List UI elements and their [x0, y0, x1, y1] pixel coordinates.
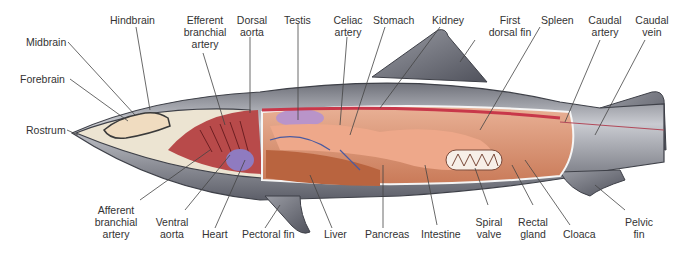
- label-dorsal-aorta: Dorsal aorta: [235, 14, 269, 38]
- label-forebrain: Forebrain: [20, 73, 65, 85]
- label-spiral-valve: Spiral valve: [472, 216, 506, 240]
- label-afferent-branchial-artery: Afferent branchial artery: [92, 204, 140, 240]
- label-heart: Heart: [202, 228, 228, 240]
- label-efferent-branchial-artery: Efferent branchial artery: [177, 14, 233, 50]
- label-kidney: Kidney: [432, 14, 464, 26]
- label-cloaca: Cloaca: [563, 228, 596, 240]
- label-celiac-artery: Celiac artery: [328, 14, 368, 38]
- label-first-dorsal-fin: First dorsal fin: [481, 14, 539, 38]
- label-spleen: Spleen: [541, 14, 574, 26]
- first-dorsal-fin-shape: [372, 30, 487, 82]
- label-ventral-aorta: Ventral aorta: [152, 216, 192, 240]
- label-hindbrain: Hindbrain: [110, 14, 155, 26]
- label-rostrum: Rostrum: [26, 124, 66, 136]
- pelvic-fin-shape: [560, 170, 625, 196]
- label-intestine: Intestine: [421, 228, 461, 240]
- label-midbrain: Midbrain: [26, 36, 66, 48]
- spiral-valve-shape: [446, 150, 502, 170]
- label-caudal-vein: Caudal vein: [632, 14, 672, 38]
- heart-shape: [226, 149, 254, 171]
- label-liver: Liver: [324, 228, 347, 240]
- label-caudal-artery: Caudal artery: [585, 14, 625, 38]
- label-testis: Testis: [284, 14, 311, 26]
- label-stomach: Stomach: [373, 14, 414, 26]
- label-pectoral-fin: Pectoral fin: [242, 228, 295, 240]
- label-pelvic-fin: Pelvic fin: [622, 216, 656, 240]
- label-pancreas: Pancreas: [365, 228, 409, 240]
- label-rectal-gland: Rectal gland: [516, 216, 550, 240]
